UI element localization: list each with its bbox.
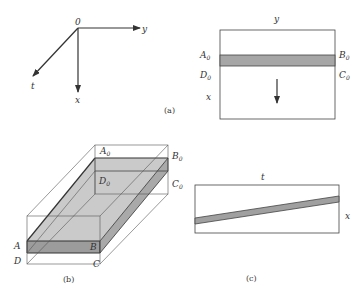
label-B0: B0 (338, 50, 350, 61)
time-space-diagram: t x (195, 172, 350, 233)
x-axis-label: x (75, 95, 80, 105)
ts-x-label: x (345, 211, 350, 221)
label-C: C (93, 259, 100, 269)
label-D0: D0 (199, 70, 211, 81)
label-B0-3d: B0 (171, 151, 183, 162)
slab-3d-diagram: A B D C A0 B0 C0 D0 (13, 145, 183, 269)
label-A: A (13, 241, 21, 251)
figure-canvas: 0 y x t y A0 B0 D0 C0 x (a) (0, 0, 359, 297)
ts-strip (195, 196, 339, 224)
label-B: B (89, 242, 97, 252)
caption-b: (b) (63, 275, 74, 284)
section-frame (220, 30, 335, 119)
caption-a: (a) (164, 106, 175, 115)
ts-t-label: t (261, 172, 265, 182)
t-axis-label: t (31, 81, 35, 91)
slab-top-face (27, 158, 168, 241)
label-C0: C0 (339, 70, 350, 81)
section-strip (220, 55, 335, 66)
label-A0-3d: A0 (99, 146, 111, 157)
t-axis-arrow (33, 28, 78, 76)
axes-diagram: 0 y x t (31, 17, 148, 105)
caption-c: (c) (246, 274, 257, 283)
section-y-label: y (273, 14, 280, 24)
origin-label: 0 (75, 17, 81, 27)
label-C0-3d: C0 (172, 179, 183, 190)
label-D: D (13, 256, 21, 266)
label-A0: A0 (199, 50, 211, 61)
y-axis-label: y (141, 24, 148, 34)
cross-section-diagram: y A0 B0 D0 C0 x (199, 14, 350, 119)
section-x-label: x (206, 92, 211, 102)
